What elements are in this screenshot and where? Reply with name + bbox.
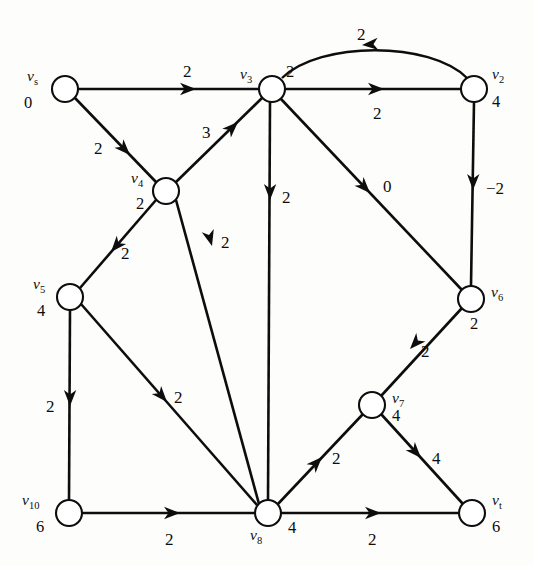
node-label-base-v2: v [492, 65, 499, 82]
node-label-v3: v3 [240, 66, 252, 82]
edge-weight-v2-v6: −2 [486, 180, 504, 197]
edge-v2-v6 [471, 102, 474, 286]
node-label-base-v10: v [22, 491, 29, 508]
edge-weight-v4-v8: 2 [221, 234, 230, 251]
node-label-v2: v2 [492, 66, 504, 82]
node-label-subscript-vt: t [499, 500, 502, 511]
graph-canvas [0, 0, 533, 566]
edge-weight-v7-vt: 4 [432, 450, 441, 467]
edges-layer [69, 50, 474, 513]
node-v2[interactable] [461, 76, 487, 102]
node-label-subscript-v2: 2 [499, 74, 504, 85]
arrowheads-layer [64, 38, 480, 520]
edge-weight-v3-v2: 2 [373, 105, 382, 122]
edge-weight-v3-v8: 2 [282, 189, 291, 206]
node-label-base-v6: v [491, 283, 498, 300]
node-label-v7: v7 [392, 390, 404, 406]
node-label-base-vs: v [27, 67, 34, 84]
node-value-v5: 4 [37, 303, 45, 320]
node-label-base-v5: v [33, 275, 40, 292]
graph-figure: 2232220−2222222242vs0v32v24v42v54v62v74v… [0, 0, 533, 566]
node-value-v7: 4 [392, 408, 400, 425]
node-value-vs: 0 [24, 95, 32, 112]
edge-weight-v10-v8: 2 [165, 531, 174, 548]
node-v7[interactable] [359, 392, 385, 418]
node-label-base-v7: v [392, 389, 399, 406]
node-v5[interactable] [57, 284, 83, 310]
node-v8[interactable] [255, 500, 281, 526]
node-value-v2: 4 [492, 94, 500, 111]
node-vt[interactable] [459, 500, 485, 526]
node-v6[interactable] [458, 286, 484, 312]
node-label-subscript-v8: 8 [257, 535, 262, 546]
edge-v3-v6 [281, 99, 462, 290]
edge-weight-v8-v7: 2 [332, 450, 341, 467]
edge-v4-v3 [176, 98, 262, 182]
arrowhead-v4-v8 [202, 229, 218, 248]
node-label-base-v4: v [131, 169, 138, 186]
edge-vs-v4 [75, 98, 156, 182]
node-label-v4: v4 [131, 170, 143, 186]
node-value-vt: 6 [492, 519, 500, 536]
node-label-subscript-v10: 10 [29, 500, 40, 511]
node-label-subscript-v3: 3 [247, 74, 252, 85]
edge-weight-vs-v4: 2 [94, 140, 103, 157]
node-value-v6: 2 [470, 316, 478, 333]
node-label-vs: vs [27, 68, 38, 84]
node-value-v3: 2 [286, 64, 294, 81]
node-label-v8: v8 [250, 527, 262, 543]
node-label-subscript-v4: 4 [138, 178, 143, 189]
node-vs[interactable] [52, 76, 78, 102]
node-value-v10: 6 [36, 519, 44, 536]
node-v3[interactable] [259, 76, 285, 102]
edge-v2-v3 [282, 50, 467, 78]
node-value-v4: 2 [136, 196, 144, 213]
node-label-base-v3: v [240, 65, 247, 82]
edge-weight-v3-v6: 0 [383, 178, 392, 195]
node-v10[interactable] [56, 500, 82, 526]
edge-weight-v5-v8: 2 [174, 389, 183, 406]
node-value-v8: 4 [288, 520, 296, 537]
node-label-subscript-v5: 5 [40, 284, 45, 295]
edge-weight-v5-v10: 2 [46, 398, 55, 415]
edge-weight-v8-vt: 2 [368, 531, 377, 548]
node-label-v6: v6 [491, 284, 503, 300]
node-v4[interactable] [153, 178, 179, 204]
edge-weight-v4-v5: 2 [121, 245, 130, 262]
edge-v7-vt [381, 414, 463, 504]
node-label-base-vt: v [492, 491, 499, 508]
node-label-subscript-v6: 6 [498, 292, 503, 303]
node-label-vt: vt [492, 492, 502, 508]
node-label-v5: v5 [33, 276, 45, 292]
node-label-subscript-vs: s [34, 76, 38, 87]
edge-weight-vs-v3: 2 [183, 63, 192, 80]
edge-weight-v2-v3: 2 [357, 26, 366, 43]
edge-v3-v8 [268, 102, 270, 500]
node-label-base-v8: v [250, 526, 257, 543]
edge-weight-v4-v3: 3 [202, 124, 211, 141]
node-label-v10: v10 [22, 492, 39, 508]
edge-weight-v6-v7: 2 [421, 343, 430, 360]
